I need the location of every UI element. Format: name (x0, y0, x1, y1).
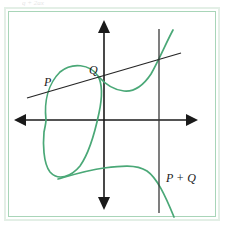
elliptic-curve-group (44, 30, 174, 217)
elliptic-curve-figure: q + 2ax P Q P + Q (0, 0, 225, 226)
point-label-p: P (43, 75, 52, 89)
point-label-p-plus-q: P + Q (165, 171, 196, 185)
y-axis-bottom-arrowhead (98, 197, 110, 210)
x-axis-right-arrowhead (186, 114, 198, 126)
elliptic-curve-oval-component (44, 66, 102, 177)
x-axis-left-arrowhead (14, 114, 26, 126)
y-axis-top-arrowhead (98, 20, 110, 33)
elliptic-curve-plot: P Q P + Q (0, 0, 225, 226)
elliptic-curve-upper-right-branch (99, 30, 173, 91)
point-label-q: Q (89, 63, 98, 77)
elliptic-curve-lower-right-branch (58, 166, 174, 217)
